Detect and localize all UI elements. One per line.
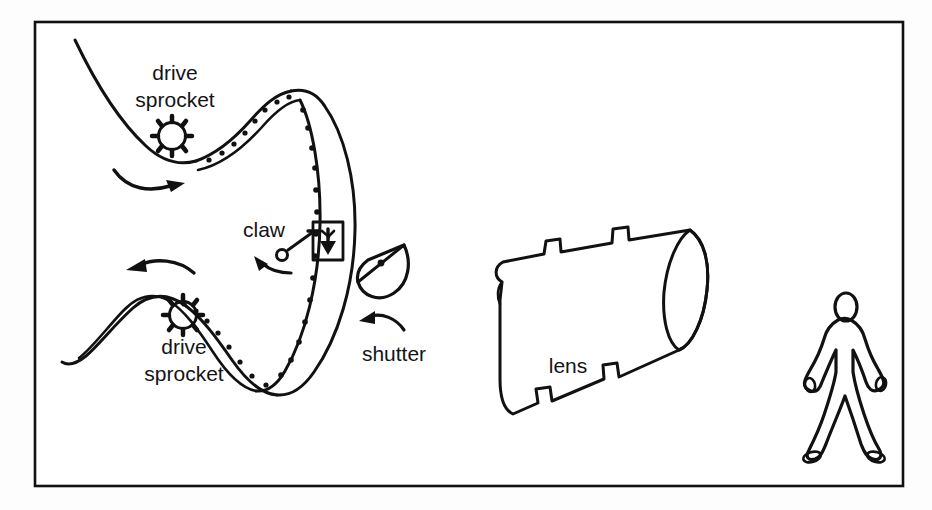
diagram-root: drive sprocket claw drive sprocket shutt… — [0, 0, 932, 510]
label-shutter: shutter — [362, 342, 426, 365]
label-claw: claw — [243, 218, 286, 241]
diagram-canvas: drive sprocket claw drive sprocket shutt… — [0, 0, 932, 510]
label-lens: lens — [549, 354, 588, 377]
label-drive-sprocket-bottom-line1: drive — [161, 335, 207, 358]
label-drive-sprocket-top-line1: drive — [152, 61, 198, 84]
label-drive-sprocket-bottom-line2: sprocket — [144, 362, 224, 385]
shutter-pivot-dot — [378, 260, 385, 267]
label-drive-sprocket-top-line2: sprocket — [135, 88, 215, 111]
